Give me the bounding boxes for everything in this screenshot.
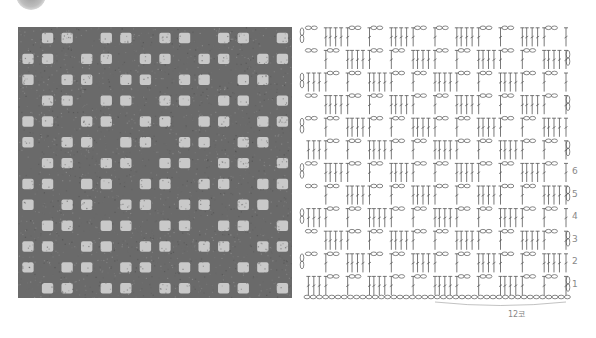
row-label-6: 6 (572, 166, 578, 176)
swatch-photo (18, 27, 292, 298)
row-label-5: 5 (572, 189, 578, 199)
repeat-stitch-count: 12코 (508, 308, 525, 319)
stitch-diagram (298, 24, 596, 324)
row-label-3: 3 (572, 234, 578, 244)
swatch-image (18, 27, 292, 298)
crochet-chart (298, 24, 596, 324)
row-label-4: 4 (572, 211, 578, 221)
row-label-1: 1 (572, 279, 578, 289)
round-badge-icon (16, 0, 46, 10)
row-label-2: 2 (572, 256, 578, 266)
